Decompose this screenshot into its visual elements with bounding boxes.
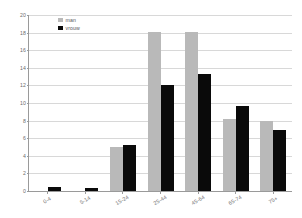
x-axis-tick-mark <box>122 192 123 194</box>
bar-man <box>148 32 161 191</box>
y-axis-tick-label: 8 <box>23 118 26 124</box>
bar-group <box>67 15 105 191</box>
bar-vrouw <box>85 188 98 191</box>
y-axis-tick-label: 0 <box>23 188 26 194</box>
bar-group <box>179 15 217 191</box>
bars-layer <box>29 15 292 191</box>
bar-group <box>29 15 67 191</box>
x-axis-labels: 0-45-1415-2425-4445-6465-7475+ <box>28 192 292 218</box>
x-axis-tick-label: 25-44 <box>152 194 167 206</box>
bar-man <box>185 32 198 191</box>
bar-group <box>254 15 292 191</box>
legend-item-vrouw[interactable]: vrouw <box>58 25 80 31</box>
bar-group <box>104 15 142 191</box>
y-axis-tick-label: 2 <box>23 170 26 176</box>
bar-vrouw <box>48 187 61 191</box>
x-axis-tick-mark <box>85 192 86 194</box>
bar-group <box>142 15 180 191</box>
bar-man <box>110 147 123 191</box>
x-axis-tick-mark <box>47 192 48 194</box>
bar-man <box>260 121 273 191</box>
y-axis-tick-label: 18 <box>20 30 26 36</box>
x-axis-tick-label: 15-24 <box>115 194 130 206</box>
x-axis-label-cell: 5-14 <box>66 192 104 218</box>
x-axis-tick-label: 75+ <box>268 195 279 205</box>
y-axis-tick-label: 4 <box>23 153 26 159</box>
bar-vrouw <box>161 85 174 191</box>
y-axis-tick-label: 20 <box>20 12 26 18</box>
bar-vrouw <box>123 145 136 191</box>
plot-area: 02468101214161820 <box>28 15 292 192</box>
bar-group <box>217 15 255 191</box>
legend-swatch-icon <box>58 18 63 23</box>
chart-legend: manvrouw <box>58 17 80 31</box>
x-axis-label-cell: 65-74 <box>217 192 255 218</box>
x-axis-label-cell: 75+ <box>254 192 292 218</box>
x-axis-tick-label: 5-14 <box>78 195 91 206</box>
bar-chart: 02468101214161820 0-45-1415-2425-4445-64… <box>0 0 302 218</box>
bar-man <box>223 119 236 191</box>
x-axis-tick-mark <box>273 192 274 194</box>
legend-label: vrouw <box>66 25 80 31</box>
legend-swatch-icon <box>58 26 63 31</box>
bar-vrouw <box>236 106 249 191</box>
x-axis-tick-label: 0-4 <box>42 195 52 204</box>
y-axis-tick-label: 12 <box>20 82 26 88</box>
x-axis-tick-mark <box>198 192 199 194</box>
legend-label: man <box>66 17 76 23</box>
x-axis-label-cell: 25-44 <box>141 192 179 218</box>
y-axis-tick-label: 6 <box>23 135 26 141</box>
x-axis-tick-label: 45-64 <box>190 194 205 206</box>
x-axis-tick-mark <box>235 192 236 194</box>
y-axis-tick-label: 10 <box>20 100 26 106</box>
x-axis-label-cell: 15-24 <box>103 192 141 218</box>
x-axis-tick-label: 65-74 <box>228 194 243 206</box>
y-axis-tick-label: 14 <box>20 65 26 71</box>
y-axis-tick-label: 16 <box>20 47 26 53</box>
legend-item-man[interactable]: man <box>58 17 80 23</box>
bar-vrouw <box>198 74 211 191</box>
x-axis-tick-mark <box>160 192 161 194</box>
x-axis-label-cell: 0-4 <box>28 192 66 218</box>
x-axis-label-cell: 45-64 <box>179 192 217 218</box>
bar-vrouw <box>273 130 286 191</box>
